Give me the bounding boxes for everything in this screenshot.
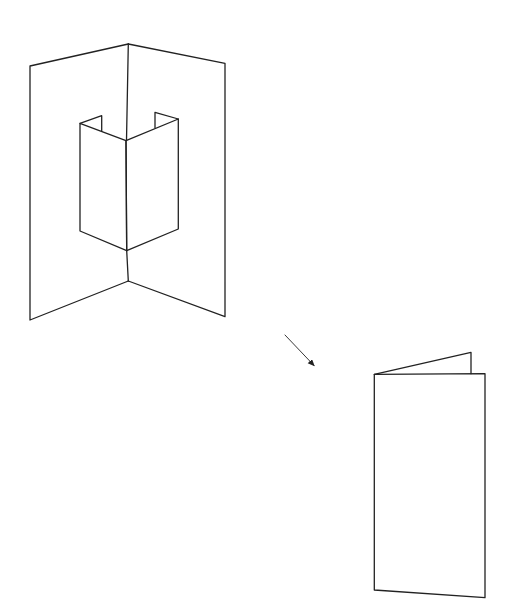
open-card-right-panel [128, 44, 225, 317]
popup-left-face [80, 123, 127, 250]
pop-up-card-diagram [0, 0, 511, 615]
popup-element [80, 112, 178, 250]
open-card-center-fold-upper [127, 44, 129, 141]
closed-card-front-cover [374, 374, 485, 598]
open-card-left-panel [30, 44, 128, 320]
open-card [30, 44, 225, 320]
direction-arrow [285, 335, 314, 366]
closed-card-back-flap [374, 352, 471, 374]
closed-card [374, 352, 485, 597]
arrow-shaft [285, 335, 314, 366]
popup-right-face [126, 119, 178, 251]
popup-left-tab [80, 116, 102, 131]
open-card-center-fold-lower [127, 251, 129, 281]
